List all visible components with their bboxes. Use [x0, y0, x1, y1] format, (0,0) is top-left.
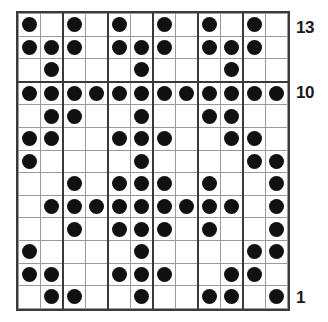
- dot-cell-empty[interactable]: [243, 105, 266, 128]
- dot-cell-filled[interactable]: [108, 14, 131, 37]
- dot-cell-filled[interactable]: [41, 286, 64, 309]
- dot-cell-filled[interactable]: [266, 286, 288, 309]
- dot-cell-filled[interactable]: [41, 195, 64, 218]
- dot-cell-filled[interactable]: [266, 195, 288, 218]
- dot-cell-filled[interactable]: [221, 127, 244, 150]
- dot-cell-empty[interactable]: [266, 36, 288, 59]
- dot-cell-filled[interactable]: [243, 82, 266, 105]
- dot-cell-empty[interactable]: [176, 173, 199, 196]
- dot-cell-filled[interactable]: [108, 36, 131, 59]
- dot-cell-empty[interactable]: [153, 105, 176, 128]
- dot-cell-filled[interactable]: [221, 195, 244, 218]
- dot-cell-empty[interactable]: [221, 14, 244, 37]
- dot-cell-empty[interactable]: [86, 36, 109, 59]
- dot-cell-filled[interactable]: [63, 36, 86, 59]
- dot-cell-empty[interactable]: [153, 150, 176, 173]
- dot-cell-filled[interactable]: [63, 218, 86, 241]
- dot-cell-empty[interactable]: [86, 14, 109, 37]
- dot-cell-empty[interactable]: [86, 263, 109, 286]
- dot-cell-filled[interactable]: [131, 218, 154, 241]
- dot-cell-empty[interactable]: [63, 127, 86, 150]
- dot-cell-empty[interactable]: [176, 14, 199, 37]
- dot-cell-empty[interactable]: [176, 105, 199, 128]
- dot-cell-empty[interactable]: [108, 240, 131, 263]
- dot-cell-filled[interactable]: [198, 36, 221, 59]
- dot-cell-filled[interactable]: [198, 105, 221, 128]
- dot-cell-filled[interactable]: [108, 173, 131, 196]
- dot-cell-empty[interactable]: [63, 150, 86, 173]
- dot-cell-empty[interactable]: [221, 240, 244, 263]
- dot-cell-empty[interactable]: [243, 59, 266, 82]
- dot-cell-filled[interactable]: [108, 127, 131, 150]
- dot-cell-empty[interactable]: [86, 218, 109, 241]
- dot-cell-empty[interactable]: [243, 173, 266, 196]
- dot-cell-empty[interactable]: [176, 263, 199, 286]
- dot-cell-empty[interactable]: [198, 150, 221, 173]
- dot-cell-filled[interactable]: [198, 173, 221, 196]
- dot-cell-filled[interactable]: [266, 240, 288, 263]
- dot-cell-filled[interactable]: [153, 218, 176, 241]
- dot-cell-filled[interactable]: [86, 195, 109, 218]
- dot-cell-filled[interactable]: [266, 218, 288, 241]
- dot-cell-empty[interactable]: [63, 59, 86, 82]
- dot-cell-empty[interactable]: [19, 286, 41, 309]
- dot-cell-filled[interactable]: [243, 150, 266, 173]
- dot-cell-empty[interactable]: [108, 150, 131, 173]
- dot-cell-filled[interactable]: [131, 195, 154, 218]
- dot-cell-filled[interactable]: [131, 127, 154, 150]
- dot-cell-empty[interactable]: [153, 59, 176, 82]
- dot-cell-empty[interactable]: [19, 173, 41, 196]
- dot-cell-empty[interactable]: [221, 218, 244, 241]
- dot-cell-filled[interactable]: [221, 82, 244, 105]
- dot-cell-filled[interactable]: [221, 263, 244, 286]
- dot-cell-empty[interactable]: [221, 173, 244, 196]
- dot-cell-empty[interactable]: [176, 36, 199, 59]
- dot-cell-filled[interactable]: [19, 36, 41, 59]
- dot-cell-filled[interactable]: [41, 263, 64, 286]
- dot-cell-filled[interactable]: [198, 195, 221, 218]
- dot-cell-filled[interactable]: [131, 150, 154, 173]
- dot-cell-empty[interactable]: [153, 286, 176, 309]
- dot-cell-empty[interactable]: [41, 240, 64, 263]
- dot-cell-filled[interactable]: [221, 286, 244, 309]
- dot-cell-empty[interactable]: [86, 105, 109, 128]
- dot-cell-filled[interactable]: [153, 127, 176, 150]
- dot-cell-empty[interactable]: [221, 150, 244, 173]
- dot-cell-filled[interactable]: [41, 105, 64, 128]
- dot-cell-filled[interactable]: [131, 240, 154, 263]
- dot-cell-filled[interactable]: [131, 173, 154, 196]
- dot-cell-filled[interactable]: [198, 14, 221, 37]
- dot-cell-filled[interactable]: [221, 105, 244, 128]
- dot-cell-empty[interactable]: [86, 150, 109, 173]
- dot-cell-filled[interactable]: [63, 195, 86, 218]
- dot-cell-empty[interactable]: [41, 14, 64, 37]
- dot-cell-empty[interactable]: [86, 286, 109, 309]
- dot-cell-filled[interactable]: [41, 82, 64, 105]
- dot-cell-empty[interactable]: [153, 240, 176, 263]
- dot-cell-filled[interactable]: [198, 218, 221, 241]
- dot-cell-empty[interactable]: [176, 150, 199, 173]
- dot-cell-filled[interactable]: [19, 263, 41, 286]
- dot-cell-filled[interactable]: [41, 36, 64, 59]
- dot-cell-filled[interactable]: [153, 195, 176, 218]
- dot-cell-filled[interactable]: [153, 36, 176, 59]
- dot-cell-filled[interactable]: [41, 127, 64, 150]
- dot-cell-empty[interactable]: [19, 59, 41, 82]
- dot-cell-filled[interactable]: [198, 286, 221, 309]
- dot-cell-empty[interactable]: [86, 127, 109, 150]
- dot-cell-empty[interactable]: [86, 59, 109, 82]
- dot-cell-empty[interactable]: [198, 127, 221, 150]
- dot-cell-filled[interactable]: [108, 195, 131, 218]
- dot-cell-filled[interactable]: [63, 82, 86, 105]
- dot-cell-empty[interactable]: [176, 218, 199, 241]
- dot-cell-filled[interactable]: [243, 240, 266, 263]
- dot-cell-empty[interactable]: [19, 105, 41, 128]
- dot-cell-empty[interactable]: [198, 59, 221, 82]
- dot-cell-filled[interactable]: [108, 82, 131, 105]
- dot-cell-filled[interactable]: [41, 59, 64, 82]
- dot-cell-empty[interactable]: [198, 240, 221, 263]
- dot-cell-filled[interactable]: [266, 150, 288, 173]
- dot-cell-filled[interactable]: [131, 59, 154, 82]
- dot-cell-empty[interactable]: [176, 59, 199, 82]
- dot-cell-empty[interactable]: [41, 173, 64, 196]
